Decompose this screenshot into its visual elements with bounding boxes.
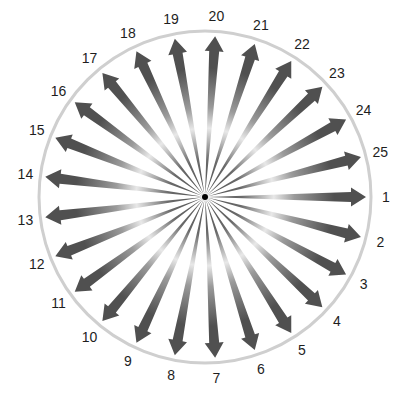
arrow-number-label: 1 bbox=[382, 189, 390, 205]
arrow-number-label: 25 bbox=[373, 144, 389, 160]
arrow-number-label: 15 bbox=[29, 122, 45, 138]
arrow-number-label: 7 bbox=[213, 370, 221, 386]
arrow-number-label: 9 bbox=[124, 353, 132, 369]
center-hub bbox=[202, 194, 208, 200]
arrow-number-label: 3 bbox=[360, 276, 368, 292]
arrow-number-label: 23 bbox=[329, 65, 345, 81]
arrow-shape bbox=[202, 190, 350, 283]
arrow-number-label: 22 bbox=[294, 36, 310, 52]
arrow-number-label: 18 bbox=[120, 25, 136, 41]
radial-arrow-diagram: 1234567891011121314151617181920212223242… bbox=[0, 0, 407, 396]
arrow-number-label: 24 bbox=[356, 102, 372, 118]
arrow-number-label: 10 bbox=[82, 329, 98, 345]
arrow-number-label: 4 bbox=[333, 313, 341, 329]
arrow-number-label: 20 bbox=[209, 8, 225, 24]
arrow-number-label: 16 bbox=[51, 83, 67, 99]
arrow-number-label: 8 bbox=[167, 367, 175, 383]
arrow-shape bbox=[202, 111, 350, 204]
arrow-number-label: 13 bbox=[18, 212, 34, 228]
dial-canvas: 1234567891011121314151617181920212223242… bbox=[0, 0, 407, 396]
arrow-number-label: 21 bbox=[253, 17, 269, 33]
arrow-number-label: 14 bbox=[18, 166, 34, 182]
arrow-number-label: 6 bbox=[257, 361, 265, 377]
arrow bbox=[202, 111, 350, 204]
arrow bbox=[202, 190, 350, 283]
arrow-number-label: 2 bbox=[376, 234, 384, 250]
arrow-number-label: 19 bbox=[163, 11, 179, 27]
arrow-number-label: 12 bbox=[29, 256, 45, 272]
arrow-number-label: 11 bbox=[51, 295, 66, 311]
arrow-number-label: 5 bbox=[298, 342, 306, 358]
arrow-number-label: 17 bbox=[82, 50, 98, 66]
